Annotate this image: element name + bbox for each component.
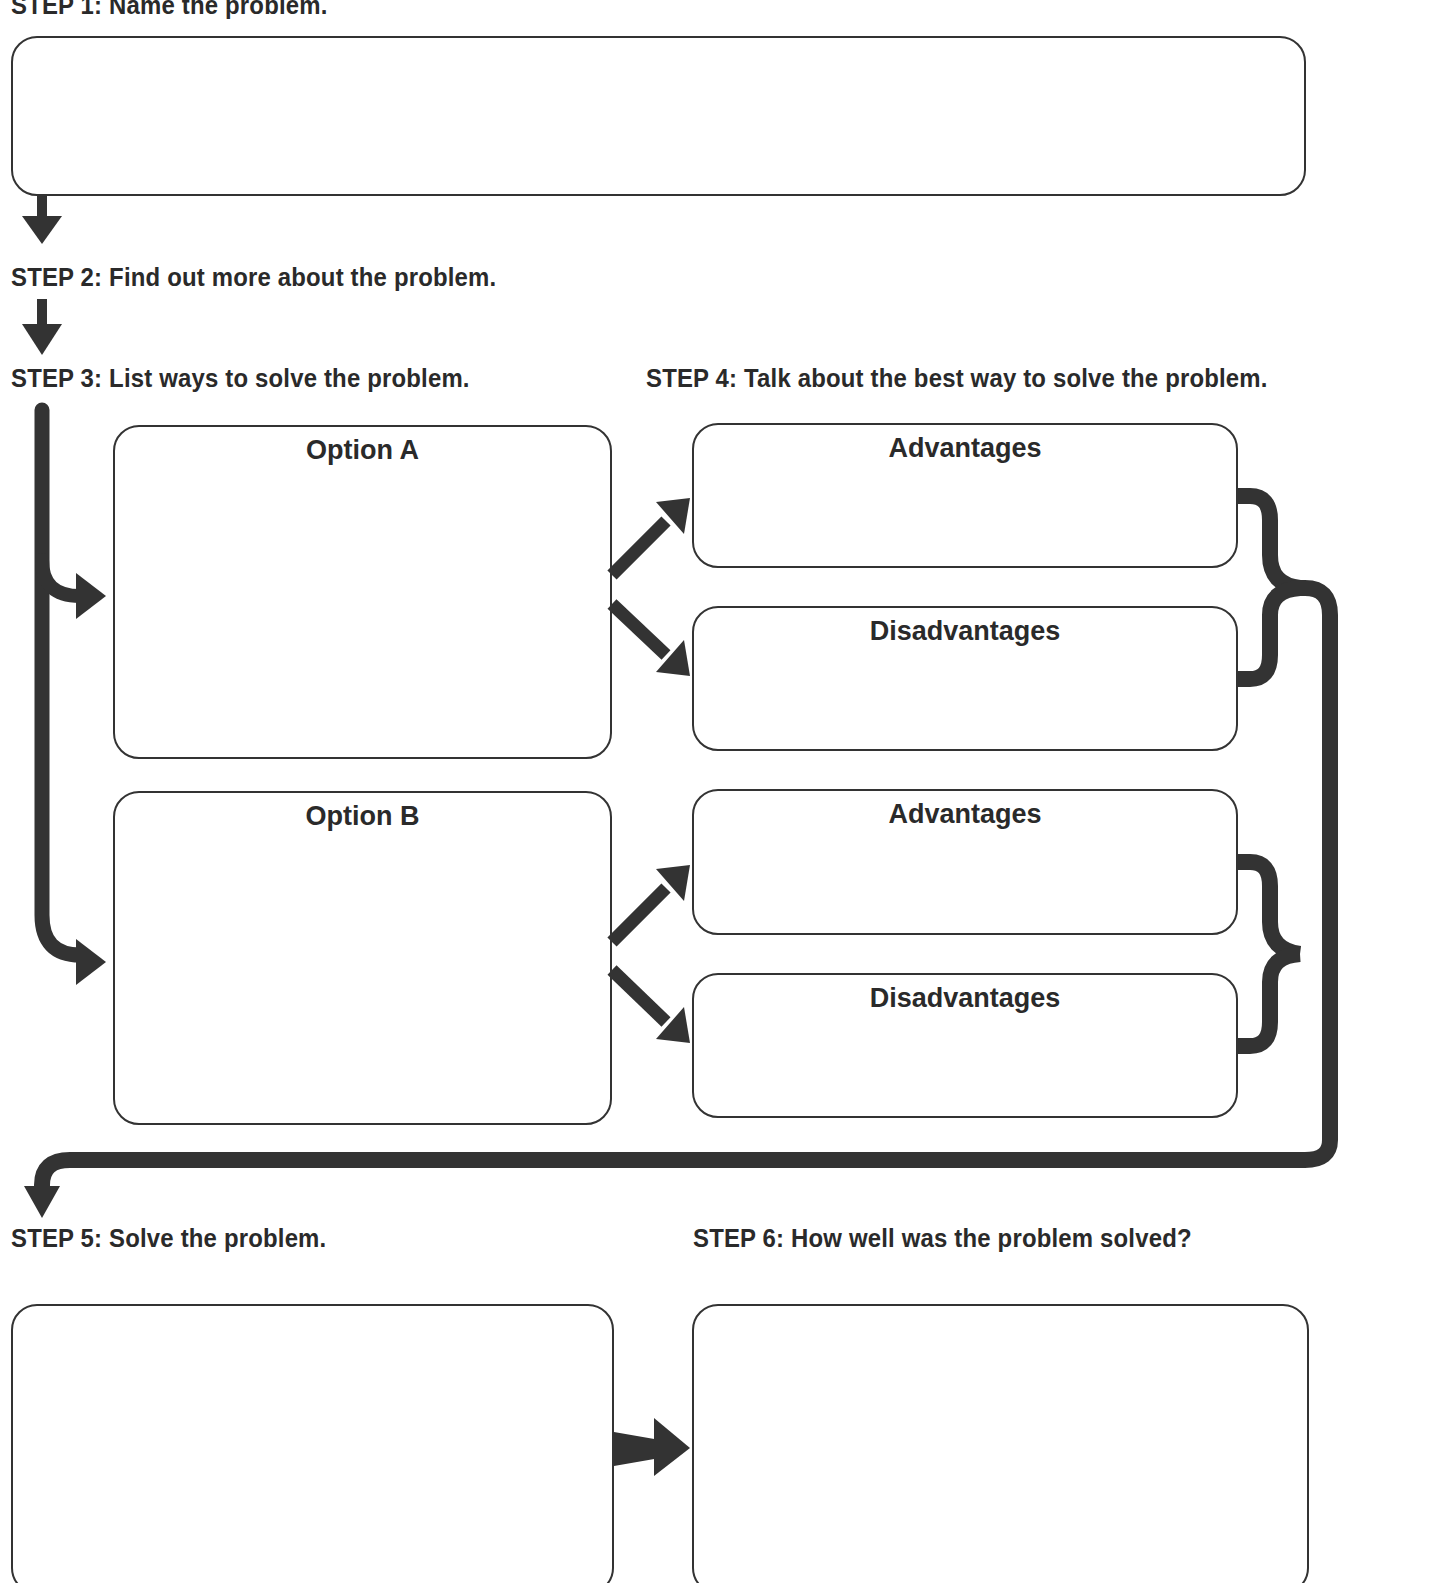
option-b-box[interactable]: Option B bbox=[113, 791, 612, 1125]
step-1-label: STEP 1: Name the problem. bbox=[11, 0, 328, 21]
arrow-down-icon bbox=[22, 299, 62, 355]
disadvantages-title: Disadvantages bbox=[694, 983, 1236, 1014]
solve-input[interactable] bbox=[29, 1320, 596, 1580]
step-5-label: STEP 5: Solve the problem. bbox=[11, 1223, 326, 1254]
advantages-title: Advantages bbox=[694, 433, 1236, 464]
option-a-input[interactable] bbox=[131, 475, 594, 745]
step-number: STEP 6: bbox=[693, 1223, 784, 1253]
option-a-advantages-input[interactable] bbox=[710, 473, 1220, 554]
step-number: STEP 5: bbox=[11, 1223, 102, 1253]
option-a-advantages-box[interactable]: Advantages bbox=[692, 423, 1238, 568]
problem-box[interactable] bbox=[11, 36, 1306, 196]
step-3-label: STEP 3: List ways to solve the problem. bbox=[11, 363, 470, 394]
fork-arrow-icon bbox=[612, 521, 666, 1022]
step-text: Name the problem. bbox=[109, 0, 327, 20]
option-a-title: Option A bbox=[115, 435, 610, 466]
step-2-label: STEP 2: Find out more about the problem. bbox=[11, 262, 496, 293]
advantages-title: Advantages bbox=[694, 799, 1236, 830]
step-text: Solve the problem. bbox=[109, 1223, 326, 1253]
solve-box[interactable] bbox=[11, 1304, 614, 1583]
evaluation-box[interactable] bbox=[692, 1304, 1309, 1583]
evaluation-input[interactable] bbox=[710, 1320, 1291, 1580]
step-6-label: STEP 6: How well was the problem solved? bbox=[693, 1223, 1192, 1254]
step-text: Talk about the best way to solve the pro… bbox=[744, 363, 1268, 393]
option-b-disadvantages-input[interactable] bbox=[710, 1023, 1220, 1104]
step-number: STEP 1: bbox=[11, 0, 102, 20]
option-a-disadvantages-box[interactable]: Disadvantages bbox=[692, 606, 1238, 751]
option-a-box[interactable]: Option A bbox=[113, 425, 612, 759]
option-b-title: Option B bbox=[115, 801, 610, 832]
disadvantages-title: Disadvantages bbox=[694, 616, 1236, 647]
step-text: List ways to solve the problem. bbox=[109, 363, 470, 393]
arrow-down-icon bbox=[22, 196, 62, 244]
arrow-down-icon bbox=[24, 1186, 60, 1218]
step-4-label: STEP 4: Talk about the best way to solve… bbox=[646, 363, 1268, 394]
step-text: How well was the problem solved? bbox=[791, 1223, 1192, 1253]
option-b-advantages-box[interactable]: Advantages bbox=[692, 789, 1238, 935]
option-a-disadvantages-input[interactable] bbox=[710, 656, 1220, 737]
arrow-right-icon bbox=[614, 1418, 690, 1476]
option-b-input[interactable] bbox=[131, 841, 594, 1111]
step-text: Find out more about the problem. bbox=[109, 262, 496, 292]
step-number: STEP 4: bbox=[646, 363, 737, 393]
step-number: STEP 2: bbox=[11, 262, 102, 292]
problem-input[interactable] bbox=[29, 52, 1288, 182]
step-number: STEP 3: bbox=[11, 363, 102, 393]
option-b-advantages-input[interactable] bbox=[710, 839, 1220, 921]
branch-arrow-icon bbox=[42, 410, 80, 955]
option-b-disadvantages-box[interactable]: Disadvantages bbox=[692, 973, 1238, 1118]
